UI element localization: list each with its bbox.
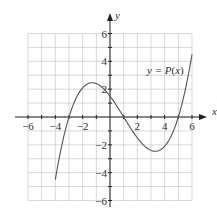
x-tick-label: 6 xyxy=(189,120,195,132)
x-tick-label: 4 xyxy=(162,120,168,132)
y-tick-label: −2 xyxy=(95,139,107,151)
x-tick-label: −4 xyxy=(49,120,61,132)
y-tick-label: 6 xyxy=(102,28,108,40)
y-axis-arrow-icon xyxy=(107,13,113,21)
y-tick-label: 4 xyxy=(102,55,108,67)
y-tick-label: −4 xyxy=(95,167,107,179)
function-label: y = P(x) xyxy=(146,64,184,77)
x-tick-label: −6 xyxy=(22,120,34,132)
polynomial-graph: −6−4−2246642−2−4−6 x y y = P(x) xyxy=(0,0,217,220)
y-tick-label: −6 xyxy=(95,195,107,207)
y-axis-label: y xyxy=(114,9,120,21)
x-tick-label: 2 xyxy=(135,120,141,132)
x-axis-label: x xyxy=(211,105,217,117)
x-tick-label: −2 xyxy=(77,120,89,132)
x-axis-arrow-icon xyxy=(199,114,207,120)
